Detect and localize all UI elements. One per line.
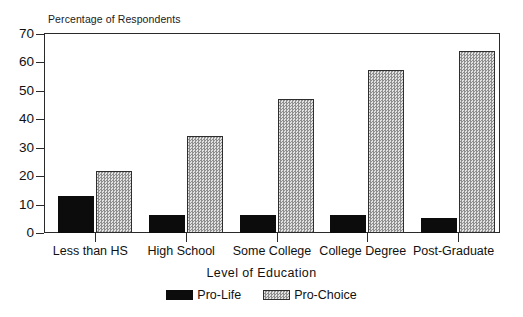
legend-label: Pro-Life [197,288,241,302]
x-axis-title: Level of Education [0,266,523,280]
legend-item: Pro-Life [166,288,241,302]
chart-caption: Percentage of Respondents [48,13,181,25]
y-axis-tick [36,119,44,120]
bar-group [136,34,227,233]
x-axis-category-label: Less than HS [53,244,128,258]
bar-pro-choice [459,51,495,233]
y-axis-tick [36,91,44,92]
x-axis-tick [277,233,278,242]
x-axis-category-label: High School [147,244,214,258]
legend-label: Pro-Choice [294,288,357,302]
bar-group [317,34,408,233]
y-axis-tick-label: 20 [0,169,34,183]
y-axis-tick-label: 30 [0,141,34,155]
legend-item: Pro-Choice [263,288,357,302]
bar-group [45,34,136,233]
bar-group [408,34,499,233]
y-axis-tick [36,34,44,35]
bar-pro-choice [278,99,314,233]
x-axis-tick [367,233,368,242]
bars-layer [45,34,499,233]
bar-pro-life [149,215,185,233]
bar-pro-life [58,196,94,233]
legend-swatch-pro-choice-icon [263,290,290,300]
bar-pro-life [421,218,457,233]
x-axis-tick [458,233,459,242]
y-axis-tick-label: 50 [0,84,34,98]
y-axis-tick-label: 10 [0,198,34,212]
x-axis-tick [186,233,187,242]
bar-chart: Percentage of Respondents 01020304050607… [0,0,523,317]
y-axis-tick-label: 0 [0,226,34,240]
bar-pro-choice [368,70,404,233]
x-axis-tick [95,233,96,242]
chart-legend: Pro-LifePro-Choice [0,288,523,302]
y-axis-tick-label: 40 [0,113,34,127]
bar-pro-life [240,215,276,233]
y-axis-tick [36,148,44,149]
y-axis-tick [36,205,44,206]
y-axis-tick [36,62,44,63]
x-axis-category-label: Post-Graduate [413,244,494,258]
x-axis-category-label: College Degree [319,244,406,258]
y-axis-tick [36,233,44,234]
y-axis-tick-label: 60 [0,56,34,70]
bar-pro-choice [187,136,223,234]
bar-pro-life [330,215,366,233]
bar-group [227,34,318,233]
y-axis-tick-label: 70 [0,27,34,41]
y-axis-tick [36,176,44,177]
legend-swatch-pro-life-icon [166,290,193,300]
bar-pro-choice [96,171,132,233]
x-axis-category-label: Some College [233,244,312,258]
